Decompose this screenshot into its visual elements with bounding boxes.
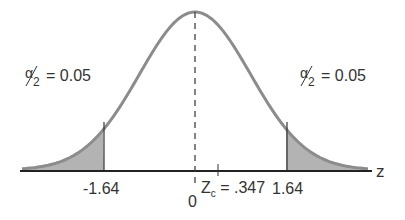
tick-label-right: 1.64 [272,180,303,197]
right-tail-label: α 2 = 0.05 [300,65,366,89]
tick-label-zero: 0 [188,193,197,210]
svg-text:2: 2 [33,75,40,89]
svg-text:Zc = .347: Zc = .347 [201,179,265,199]
svg-text:α: α [25,65,33,81]
normal-curve-chart: z -1.64 0 1.64 Zc = .347 α 2 = 0.05 α 2 … [0,0,405,220]
svg-text:= 0.05: = 0.05 [321,67,366,84]
left-tail-region [22,130,104,170]
tick-label-left: -1.64 [83,180,120,197]
svg-text:α: α [300,65,308,81]
svg-text:= 0.05: = 0.05 [46,67,91,84]
test-statistic-label: Zc = .347 [201,179,265,199]
right-tail-region [286,129,368,170]
axis-label-z: z [376,162,385,181]
left-tail-label: α 2 = 0.05 [25,65,91,89]
svg-text:2: 2 [308,75,315,89]
